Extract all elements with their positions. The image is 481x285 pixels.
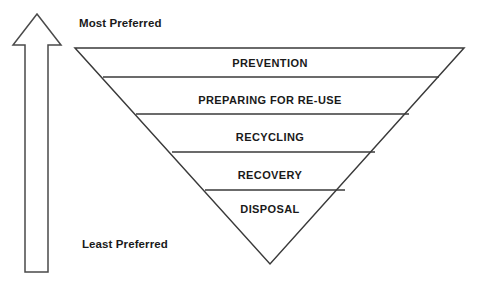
most-preferred-label: Most Preferred xyxy=(79,17,162,29)
least-preferred-label: Least Preferred xyxy=(82,238,168,250)
inverted-triangle-outline xyxy=(75,48,464,264)
preference-arrow xyxy=(13,14,61,272)
level-label-prevention: PREVENTION xyxy=(232,57,308,69)
level-label-preparing-for-re-use: PREPARING FOR RE-USE xyxy=(198,94,341,106)
hierarchy-graphic: Most Preferred Least Preferred PREVENTIO… xyxy=(0,0,481,285)
level-label-recovery: RECOVERY xyxy=(238,169,303,181)
level-label-disposal: DISPOSAL xyxy=(240,203,299,215)
level-label-recycling: RECYCLING xyxy=(236,131,304,143)
waste-hierarchy-diagram: Most Preferred Least Preferred PREVENTIO… xyxy=(0,0,481,285)
